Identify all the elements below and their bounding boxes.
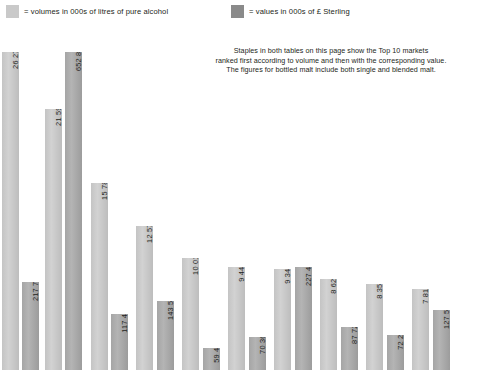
bar-value-label: 127 509	[442, 310, 451, 329]
bar-value-label: 217 736	[31, 282, 40, 301]
bar-value-label: 117 418	[120, 314, 129, 333]
bar-value-label: 10 015	[191, 258, 200, 275]
legend-label-values: = values in 000s of £ Sterling	[249, 7, 350, 16]
bar-value-label: 8 352	[375, 284, 384, 299]
legend-item-volumes: = volumes in 000s of litres of pure alco…	[6, 5, 168, 18]
bar-value-label: 8 626	[329, 279, 338, 294]
bar-volume-4: 12 572	[136, 226, 153, 370]
bar-value-4: 143 540	[157, 301, 174, 370]
bar-value-label: 9 342	[283, 269, 292, 284]
bar-volume-3: 15 787	[91, 183, 108, 370]
bar-value-label: 9 448	[237, 267, 246, 282]
bar-chart-plot-area: 26 278217 73621 597652 83915 787117 4181…	[0, 24, 481, 356]
bar-volume-5: 10 015	[182, 258, 199, 370]
bar-volume-6: 9 448	[228, 267, 245, 370]
bar-value-6: 70 368	[249, 337, 266, 370]
legend-label-volumes: = volumes in 000s of litres of pure alco…	[24, 7, 168, 16]
bar-value-1: 217 736	[22, 282, 39, 370]
bar-value-label: 652 839	[74, 52, 83, 71]
bar-value-label: 72 21	[396, 335, 405, 350]
bar-volume-10: 7 818	[412, 289, 429, 370]
legend-item-values: = values in 000s of £ Sterling	[231, 5, 350, 18]
bar-value-5: 59 41	[203, 348, 220, 370]
bar-volume-9: 8 352	[366, 284, 383, 370]
bar-value-9: 72 21	[387, 335, 404, 370]
bar-value-7: 227 478	[295, 267, 312, 370]
bar-value-label: 12 572	[145, 226, 154, 243]
bar-value-label: 227 478	[304, 267, 313, 286]
bar-value-label: 87 722	[350, 327, 359, 344]
bar-value-8: 87 722	[341, 327, 358, 370]
legend-swatch-volumes-icon	[6, 5, 19, 18]
bar-value-label: 7 818	[421, 289, 430, 304]
bar-value-2: 652 839	[65, 52, 82, 370]
bar-value-label: 59 41	[212, 348, 221, 363]
bar-value-label: 70 368	[258, 337, 267, 354]
bar-value-10: 127 509	[433, 310, 450, 370]
bar-value-label: 26 278	[11, 52, 20, 69]
bar-value-3: 117 418	[111, 314, 128, 370]
bar-volume-2: 21 597	[45, 109, 62, 370]
bar-value-label: 143 540	[166, 301, 175, 320]
legend-swatch-values-icon	[231, 5, 244, 18]
chart-legend: = volumes in 000s of litres of pure alco…	[0, 0, 481, 24]
bar-value-label: 15 787	[100, 183, 109, 200]
bar-volume-1: 26 278	[2, 52, 19, 370]
bar-value-label: 21 597	[54, 109, 63, 126]
bar-volume-8: 8 626	[320, 279, 337, 370]
bar-volume-7: 9 342	[274, 269, 291, 370]
